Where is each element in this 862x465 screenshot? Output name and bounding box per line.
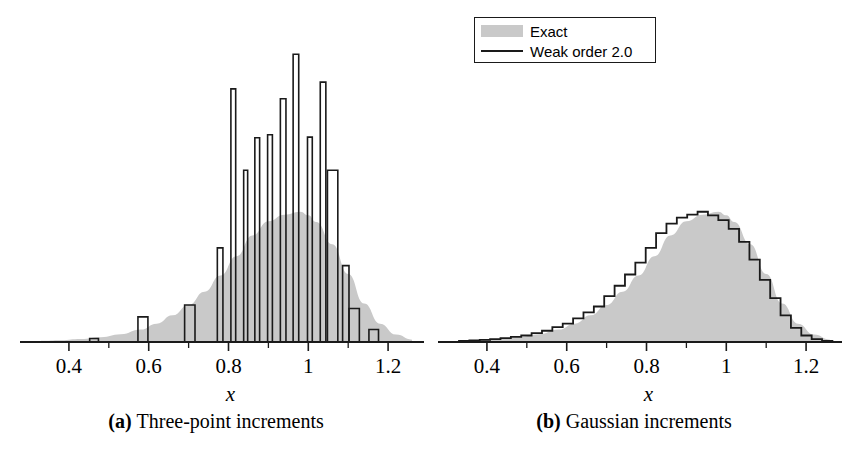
- x-tick-label: 0.6: [554, 356, 580, 377]
- caption-text-a: Three-point increments: [137, 410, 324, 432]
- exact-density-area: [41, 212, 412, 342]
- plot-area-b: [424, 0, 844, 360]
- x-axis-label: x: [644, 384, 653, 405]
- caption-b: (b) Gaussian increments: [424, 409, 844, 433]
- plot-area-a: [6, 0, 426, 360]
- x-tick-label: 0.8: [215, 356, 241, 377]
- x-tick-label: 0.4: [474, 356, 500, 377]
- plot-svg-a: [6, 0, 426, 360]
- plot-svg-b: [424, 0, 844, 360]
- figure-root: Exact Weak order 2.0 0.40.60.811.2x (a) …: [0, 0, 862, 465]
- x-tick-label: 1: [303, 356, 314, 377]
- panel-three-point-increments: 0.40.60.811.2x (a) Three-point increment…: [6, 0, 426, 465]
- caption-tag-a: (a): [108, 410, 131, 432]
- x-tick-label: 1: [721, 356, 732, 377]
- x-tick-label: 0.6: [136, 356, 162, 377]
- panel-gaussian-increments: 0.40.60.811.2x (b) Gaussian increments: [424, 0, 844, 465]
- x-axis-label: x: [226, 384, 235, 405]
- caption-text-b: Gaussian increments: [566, 410, 732, 432]
- caption-tag-b: (b): [536, 410, 560, 432]
- x-tick-label: 1.2: [793, 356, 819, 377]
- caption-a: (a) Three-point increments: [6, 409, 426, 433]
- exact-density-area: [459, 212, 830, 342]
- x-tick-label: 0.4: [56, 356, 82, 377]
- x-tick-label: 1.2: [375, 356, 401, 377]
- x-tick-label: 0.8: [633, 356, 659, 377]
